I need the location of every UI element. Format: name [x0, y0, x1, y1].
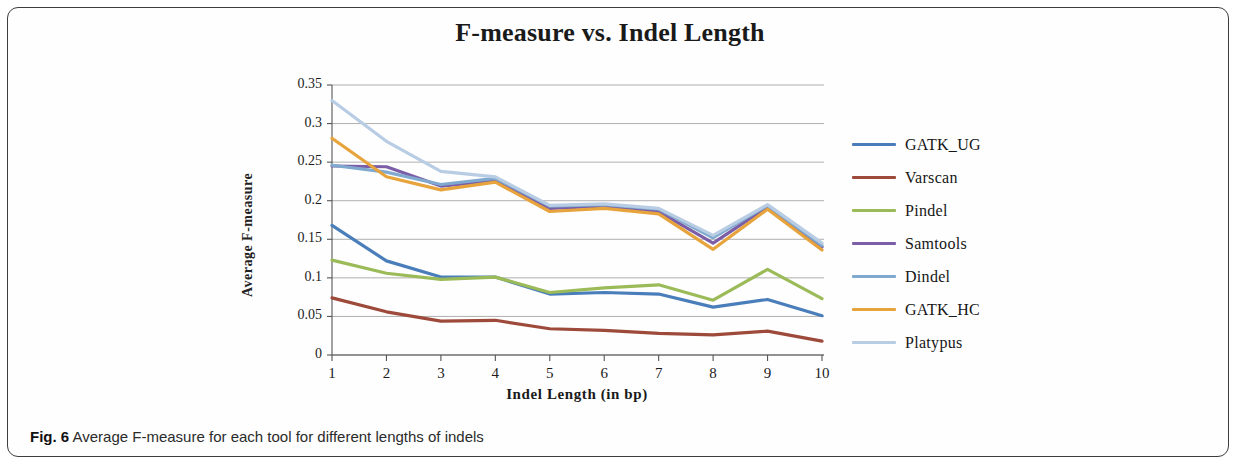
legend-label: Samtools	[905, 235, 967, 253]
legend-label: Dindel	[905, 268, 950, 286]
legend-color-swatch	[852, 209, 896, 212]
caption-label: Fig. 6	[30, 428, 69, 445]
figure-container: F-measure vs. Indel Length Average F-mea…	[0, 0, 1240, 470]
legend-item-varscan[interactable]: Varscan	[852, 161, 981, 194]
x-tick-label: 8	[698, 365, 728, 382]
legend-color-swatch	[852, 308, 896, 311]
figure-caption: Fig. 6 Average F-measure for each tool f…	[30, 428, 1180, 445]
chart-legend: GATK_UGVarscanPindelSamtoolsDindelGATK_H…	[852, 128, 981, 359]
x-tick-label: 6	[589, 365, 619, 382]
plot-svg	[0, 0, 1240, 408]
legend-item-dindel[interactable]: Dindel	[852, 260, 981, 293]
legend-label: GATK_HC	[905, 301, 980, 319]
chart-area: F-measure vs. Indel Length Average F-mea…	[0, 0, 1240, 408]
legend-item-gatk_hc[interactable]: GATK_HC	[852, 293, 981, 326]
y-tick-label: 0.2	[262, 192, 322, 208]
x-tick-label: 7	[644, 365, 674, 382]
y-tick-label: 0.15	[262, 230, 322, 246]
legend-label: Varscan	[905, 169, 958, 187]
y-tick-label: 0.3	[262, 115, 322, 131]
y-tick-label: 0.1	[262, 269, 322, 285]
legend-item-platypus[interactable]: Platypus	[852, 326, 981, 359]
x-tick-label: 3	[426, 365, 456, 382]
legend-color-swatch	[852, 341, 896, 344]
y-tick-label: 0.35	[262, 76, 322, 92]
legend-item-samtools[interactable]: Samtools	[852, 227, 981, 260]
series-line-gatk_hc	[332, 138, 822, 250]
legend-color-swatch	[852, 176, 896, 179]
legend-label: GATK_UG	[905, 136, 981, 154]
y-tick-label: 0.05	[262, 307, 322, 323]
legend-color-swatch	[852, 242, 896, 245]
legend-color-swatch	[852, 143, 896, 146]
y-tick-label: 0	[262, 346, 322, 362]
legend-item-gatk_ug[interactable]: GATK_UG	[852, 128, 981, 161]
x-tick-label: 1	[317, 365, 347, 382]
series-line-varscan	[332, 298, 822, 341]
caption-text: Average F-measure for each tool for diff…	[73, 428, 484, 445]
legend-color-swatch	[852, 275, 896, 278]
x-tick-label: 2	[371, 365, 401, 382]
legend-label: Platypus	[905, 334, 963, 352]
y-tick-label: 0.25	[262, 153, 322, 169]
x-tick-label: 4	[480, 365, 510, 382]
x-tick-label: 5	[535, 365, 565, 382]
x-tick-label: 9	[753, 365, 783, 382]
x-tick-label: 10	[807, 365, 837, 382]
legend-label: Pindel	[905, 202, 948, 220]
legend-item-pindel[interactable]: Pindel	[852, 194, 981, 227]
